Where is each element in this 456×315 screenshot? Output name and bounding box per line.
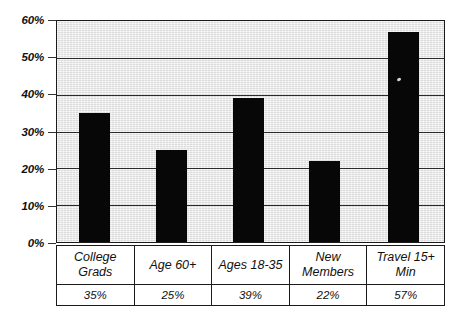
bar-college-grads [79, 113, 110, 242]
y-axis-tick-label: 30% [22, 126, 44, 138]
bar-travel-15-plus-min [388, 32, 419, 242]
bar-age-60-plus [156, 150, 187, 242]
chart-data-table: College Grads Age 60+ Ages 18-35 New Mem… [56, 245, 445, 306]
table-cell-category: Age 60+ [134, 246, 212, 285]
table-cell-value: 39% [212, 285, 290, 306]
y-axis-tick-mark [48, 132, 56, 133]
bar-ages-18-35 [233, 98, 264, 242]
table-cell-category: Travel 15+ Min [367, 246, 445, 285]
table-cell-value: 57% [367, 285, 445, 306]
y-axis-tick-label: 0% [28, 237, 44, 249]
y-axis-tick-mark [48, 206, 56, 207]
table-cell-value: 25% [134, 285, 212, 306]
bar-new-members [309, 161, 340, 242]
gridline-40 [57, 95, 444, 96]
table-cell-category: Ages 18-35 [212, 246, 290, 285]
y-axis-tick-label: 20% [22, 163, 44, 175]
table-row-values: 35% 25% 39% 22% 57% [57, 285, 445, 306]
y-axis-tick-label: 40% [22, 88, 44, 100]
table-cell-value: 35% [57, 285, 135, 306]
y-axis-tick-mark [48, 243, 56, 244]
y-axis-tick-mark [48, 169, 56, 170]
table-cell-category: College Grads [57, 246, 135, 285]
gridline-50 [57, 58, 444, 59]
y-axis-tick-mark [48, 94, 56, 95]
y-axis-tick-mark [48, 57, 56, 58]
chart-title-cropped [96, 0, 360, 4]
y-axis-tick-label: 50% [22, 51, 44, 63]
y-axis-tick-label: 60% [22, 14, 44, 26]
table-cell-value: 22% [289, 285, 367, 306]
y-axis-tick-mark [48, 20, 56, 21]
plot-area [56, 20, 445, 243]
table-row-categories: College Grads Age 60+ Ages 18-35 New Mem… [57, 246, 445, 285]
bar-chart-figure: 60% 50% 40% 30% 20% 10% 0% College Grads… [0, 0, 456, 315]
table-cell-category: New Members [289, 246, 367, 285]
y-axis-tick-label: 10% [22, 200, 44, 212]
y-axis: 60% 50% 40% 30% 20% 10% 0% [0, 20, 44, 243]
